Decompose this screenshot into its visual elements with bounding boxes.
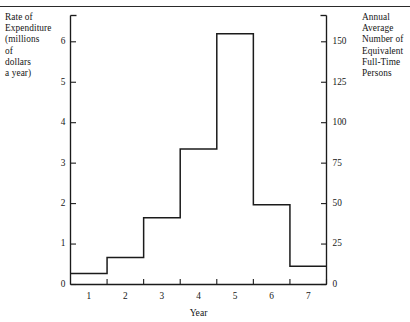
right-axis-tick-label: 125 [333, 78, 361, 87]
x-axis-tick-label: 3 [147, 292, 177, 301]
axes-group [71, 16, 327, 285]
x-axis-tick-label: 2 [110, 292, 140, 301]
left-axis-tick-label: 3 [41, 159, 66, 168]
x-axis-title: Year [139, 307, 259, 318]
x-axis-tick-label: 5 [220, 292, 250, 301]
right-axis-tick-label: 75 [333, 159, 361, 168]
ticks-group [71, 42, 327, 285]
right-axis-tick-label: 0 [333, 280, 361, 289]
left-axis-tick-label: 5 [41, 78, 66, 87]
step-series-line [71, 34, 327, 274]
left-axis-tick-label: 0 [41, 280, 66, 289]
right-axis-tick-label: 150 [333, 37, 361, 46]
right-axis-tick-label: 100 [333, 118, 361, 127]
x-axis-tick-label: 4 [184, 292, 214, 301]
left-axis-tick-label: 2 [41, 199, 66, 208]
right-axis-tick-label: 50 [333, 199, 361, 208]
x-axis-tick-label: 1 [74, 292, 104, 301]
x-axis-tick-label: 7 [293, 292, 323, 301]
left-axis-tick-label: 6 [41, 37, 66, 46]
right-axis-tick-label: 25 [333, 239, 361, 248]
left-axis-tick-label: 1 [41, 239, 66, 248]
x-axis-tick-label: 6 [257, 292, 287, 301]
figure-step-chart: Rate of Expenditure (millions of dollars… [0, 0, 410, 322]
left-axis-tick-label: 4 [41, 118, 66, 127]
